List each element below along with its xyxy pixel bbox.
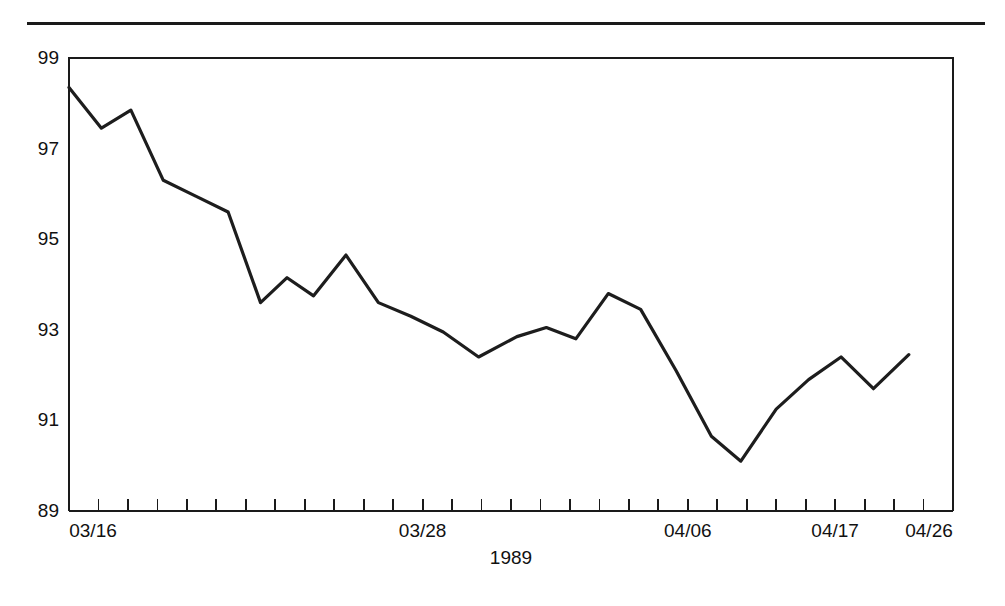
y-tick-label: 99	[38, 47, 59, 68]
plot-frame	[69, 58, 953, 511]
x-tick-label: 04/06	[664, 520, 712, 541]
x-tick-label: 04/17	[811, 520, 859, 541]
y-tick-label: 91	[38, 409, 59, 430]
x-tick-label: 03/28	[399, 520, 447, 541]
y-tick-label: 93	[38, 319, 59, 340]
x-tick-label: 04/26	[905, 520, 953, 541]
x-axis-title: 1989	[490, 547, 532, 568]
data-series-line	[69, 87, 909, 461]
y-tick-label: 95	[38, 228, 59, 249]
figure-root: 89919395979903/1603/2804/0604/1704/26198…	[0, 0, 1005, 606]
y-tick-label: 89	[38, 500, 59, 521]
x-tick-label: 03/16	[69, 520, 117, 541]
y-tick-label: 97	[38, 138, 59, 159]
line-chart: 89919395979903/1603/2804/0604/1704/26198…	[0, 0, 1005, 606]
